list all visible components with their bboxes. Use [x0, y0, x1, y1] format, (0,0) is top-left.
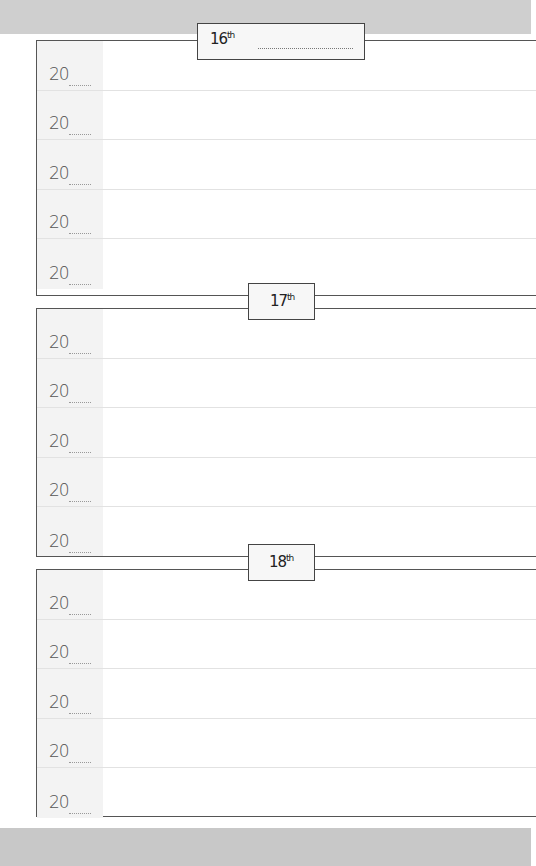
year-column-shade — [37, 91, 103, 140]
year-column-shade — [37, 620, 103, 669]
entry-row[interactable]: 20 — [37, 190, 536, 240]
year-column-shade — [37, 190, 103, 239]
year-fill-line[interactable] — [69, 85, 91, 86]
day-number: 17th — [270, 292, 294, 310]
year-prefix: 20 — [49, 381, 69, 401]
year-column-shade — [37, 719, 103, 768]
day-label-16: 16th — [197, 23, 365, 60]
year-column-shade — [37, 768, 103, 818]
entry-row[interactable]: 20 — [37, 719, 536, 769]
year-fill-line[interactable] — [69, 614, 91, 615]
year-fill-line[interactable] — [69, 552, 91, 553]
year-fill-line[interactable] — [69, 402, 91, 403]
year-prefix: 20 — [49, 332, 69, 352]
year-prefix: 20 — [49, 431, 69, 451]
day-number-text: 16 — [210, 30, 227, 48]
entry-row[interactable]: 20 — [37, 669, 536, 719]
year-column-shade — [37, 507, 103, 557]
year-fill-line[interactable] — [69, 233, 91, 234]
year-fill-line[interactable] — [69, 134, 91, 135]
year-column-shade — [37, 140, 103, 189]
year-prefix: 20 — [49, 64, 69, 84]
year-column-shade — [37, 239, 103, 289]
entry-row[interactable]: 20 — [37, 768, 536, 818]
day-number: 16th — [210, 30, 234, 48]
divider-line — [314, 556, 531, 557]
year-prefix: 20 — [49, 642, 69, 662]
year-prefix: 20 — [49, 113, 69, 133]
year-prefix: 20 — [49, 212, 69, 232]
day-number-text: 17 — [270, 292, 287, 310]
year-fill-line[interactable] — [69, 353, 91, 354]
entry-row[interactable]: 20 — [37, 408, 536, 458]
entry-row[interactable]: 20 — [37, 91, 536, 141]
year-column-shade — [37, 669, 103, 718]
entry-row[interactable]: 20 — [37, 458, 536, 508]
divider-line — [36, 295, 248, 296]
year-fill-line[interactable] — [69, 284, 91, 285]
entry-row[interactable]: 20 — [37, 620, 536, 670]
day-suffix: th — [227, 30, 234, 40]
year-column-shade — [37, 359, 103, 408]
year-prefix: 20 — [49, 263, 69, 283]
year-prefix: 20 — [49, 741, 69, 761]
year-column-shade — [37, 309, 103, 358]
divider-line — [314, 295, 531, 296]
year-column-shade — [37, 41, 103, 90]
bottom-margin-band — [0, 828, 531, 866]
day-section-18: 20 20 20 20 20 — [36, 569, 536, 817]
day-number: 18th — [269, 553, 293, 571]
year-column-shade — [37, 570, 103, 619]
year-fill-line[interactable] — [69, 663, 91, 664]
year-fill-line[interactable] — [69, 813, 91, 814]
entry-row[interactable]: 20 — [37, 140, 536, 190]
day-suffix: th — [286, 553, 293, 563]
day-label-18: 18th — [248, 544, 315, 581]
year-column-shade — [37, 458, 103, 507]
year-fill-line[interactable] — [69, 452, 91, 453]
entry-row[interactable]: 20 — [37, 239, 536, 289]
entry-row[interactable]: 20 — [37, 359, 536, 409]
year-fill-line[interactable] — [69, 713, 91, 714]
month-fill-line[interactable] — [258, 48, 353, 49]
year-prefix: 20 — [49, 792, 69, 812]
day-number-text: 18 — [269, 553, 286, 571]
year-fill-line[interactable] — [69, 762, 91, 763]
year-fill-line[interactable] — [69, 184, 91, 185]
day-suffix: th — [287, 292, 294, 302]
year-prefix: 20 — [49, 692, 69, 712]
year-prefix: 20 — [49, 593, 69, 613]
day-label-17: 17th — [248, 283, 315, 320]
year-prefix: 20 — [49, 480, 69, 500]
year-prefix: 20 — [49, 163, 69, 183]
day-section-16: 20 20 20 20 20 — [36, 40, 536, 296]
divider-line — [36, 556, 248, 557]
year-prefix: 20 — [49, 531, 69, 551]
year-fill-line[interactable] — [69, 501, 91, 502]
day-section-17: 20 20 20 20 20 — [36, 308, 536, 557]
year-column-shade — [37, 408, 103, 457]
